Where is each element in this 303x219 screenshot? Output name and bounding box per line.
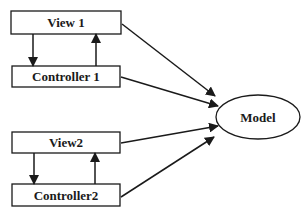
node-view1-label: View 1 [47, 15, 84, 30]
edge-view2-to-model [121, 126, 218, 143]
node-view1: View 1 [11, 11, 121, 34]
node-model-label: Model [240, 110, 276, 125]
edge-view1-to-model [122, 24, 215, 96]
node-view2: View2 [12, 132, 120, 153]
node-controller2-label: Controller2 [34, 188, 99, 203]
node-controller1-label: Controller 1 [32, 69, 100, 84]
node-controller2: Controller2 [12, 184, 120, 206]
node-view2-label: View2 [49, 135, 83, 150]
edge-controller1-to-model [121, 77, 218, 106]
node-controller1: Controller 1 [12, 66, 120, 87]
node-model: Model [216, 95, 300, 139]
mvc-diagram: View 1 Controller 1 View2 Controller2 Mo… [0, 0, 303, 219]
edge-controller2-to-model [121, 137, 214, 197]
